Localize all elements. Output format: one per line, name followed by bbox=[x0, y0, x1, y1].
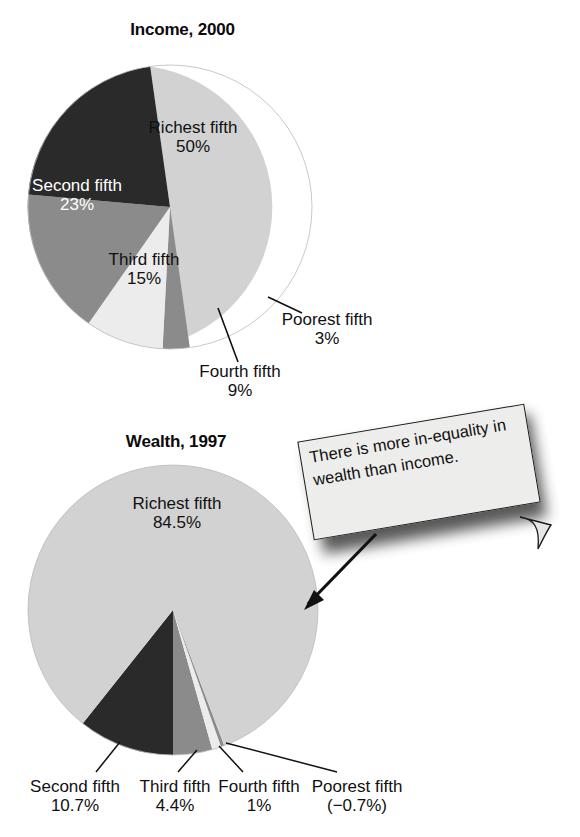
wealth-label-fourth-name: Fourth fifth bbox=[214, 777, 304, 796]
income-label-poorest: Poorest fifth 3% bbox=[268, 310, 386, 348]
income-leader-fourth bbox=[218, 308, 238, 362]
wealth-label-poorest: Poorest fifth (−0.7%) bbox=[292, 777, 422, 815]
wealth-label-richest-name: Richest fifth bbox=[98, 494, 256, 513]
wealth-label-third: Third fifth 4.4% bbox=[130, 777, 220, 815]
income-label-fourth: Fourth fifth 9% bbox=[160, 362, 320, 400]
income-label-poorest-value: 3% bbox=[268, 329, 386, 348]
wealth-label-richest-value: 84.5% bbox=[98, 513, 256, 532]
wealth-leader-fourth bbox=[219, 746, 243, 772]
income-label-fourth-name: Fourth fifth bbox=[160, 362, 320, 381]
income-label-richest-value: 50% bbox=[118, 137, 268, 156]
income-label-second: Second fifth 23% bbox=[16, 176, 138, 214]
wealth-label-fourth: Fourth fifth 1% bbox=[214, 777, 304, 815]
wealth-label-poorest-value: (−0.7%) bbox=[292, 796, 422, 815]
wealth-label-poorest-name: Poorest fifth bbox=[292, 777, 422, 796]
income-label-second-name: Second fifth bbox=[16, 176, 138, 195]
income-label-richest: Richest fifth 50% bbox=[118, 118, 268, 156]
wealth-label-fourth-value: 1% bbox=[214, 796, 304, 815]
wealth-label-second-value: 10.7% bbox=[12, 796, 138, 815]
figure-canvas: Income, 2000 Richest fifth 50% Second fi… bbox=[0, 0, 580, 837]
wealth-leader-poorest bbox=[226, 743, 337, 772]
callout-arrow-icon bbox=[280, 520, 400, 650]
income-label-fourth-value: 9% bbox=[160, 381, 320, 400]
income-label-richest-name: Richest fifth bbox=[118, 118, 268, 137]
income-label-third-value: 15% bbox=[88, 269, 200, 288]
wealth-label-richest: Richest fifth 84.5% bbox=[98, 494, 256, 532]
income-label-third: Third fifth 15% bbox=[88, 250, 200, 288]
wealth-label-second-name: Second fifth bbox=[12, 777, 138, 796]
income-label-second-value: 23% bbox=[16, 195, 138, 214]
income-label-third-name: Third fifth bbox=[88, 250, 200, 269]
wealth-label-third-name: Third fifth bbox=[130, 777, 220, 796]
wealth-leader-second bbox=[96, 742, 120, 772]
income-label-poorest-name: Poorest fifth bbox=[268, 310, 386, 329]
wealth-label-second: Second fifth 10.7% bbox=[12, 777, 138, 815]
wealth-label-third-value: 4.4% bbox=[130, 796, 220, 815]
page-curl-icon bbox=[518, 515, 552, 553]
